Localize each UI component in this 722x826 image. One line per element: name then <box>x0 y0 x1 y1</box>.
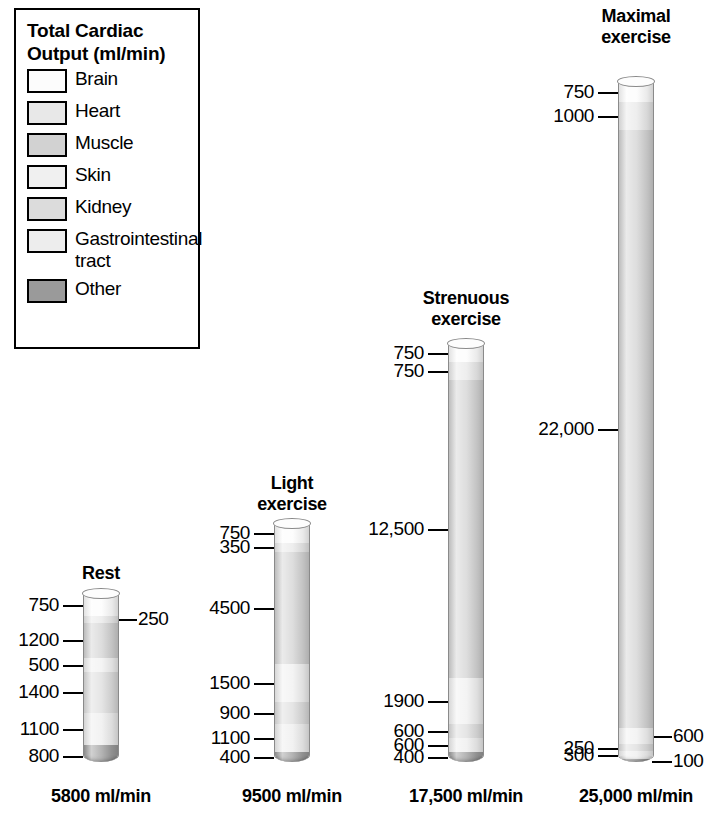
cylinder-body <box>618 82 654 762</box>
bar-segment <box>619 728 653 744</box>
segment-value-label: 300 <box>468 745 594 764</box>
segment-value-label: 1000 <box>468 106 594 125</box>
segment-tick <box>598 92 618 94</box>
bar-segment <box>619 102 653 129</box>
chart-canvas: Total Cardiac Output (ml/min) BrainHeart… <box>0 0 722 826</box>
bar-segment <box>619 751 653 759</box>
cylinder-bar <box>618 82 654 762</box>
column-total-label: 25,000 ml/min <box>541 786 722 807</box>
segment-value-label: 100 <box>673 751 704 770</box>
cylinder-top-ellipse <box>617 76 655 87</box>
segment-tick <box>652 761 672 763</box>
segment-tick <box>598 116 618 118</box>
segment-tick <box>652 736 672 738</box>
segment-value-label: 750 <box>468 82 594 101</box>
segment-value-label: 22,000 <box>468 419 594 438</box>
bar-segment <box>619 759 653 762</box>
segment-tick <box>598 755 618 757</box>
segment-value-label: 600 <box>673 726 704 745</box>
column-title: Maximalexercise <box>551 6 721 48</box>
bar-segment <box>619 744 653 751</box>
segment-tick <box>598 429 618 431</box>
column-title-line1: Maximal <box>551 6 721 27</box>
segment-tick <box>598 748 618 750</box>
column-title-line2: exercise <box>551 27 721 48</box>
bar-column: Maximalexercise750100022,000600250300100… <box>0 0 722 826</box>
bar-segment <box>619 130 653 728</box>
